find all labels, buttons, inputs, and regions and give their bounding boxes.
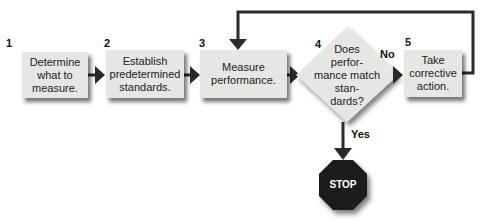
step-4-line: perfor- [307, 56, 387, 69]
step-2-box: Establishpredeterminedstandards. [106, 50, 184, 98]
step-5-text: action. [409, 80, 457, 93]
step-5-number: 5 [405, 36, 411, 48]
step-4-line: dards? [307, 95, 387, 108]
step-2-text: Establish [110, 55, 181, 68]
step-4-line: Does [307, 43, 387, 56]
step-3-box: Measureperformance. [200, 50, 287, 98]
step-4-line: stan- [307, 82, 387, 95]
step-1-number: 1 [6, 37, 12, 49]
connectors [0, 0, 495, 221]
no-label: No [380, 48, 395, 60]
step-1-text: what to [30, 69, 81, 82]
step-1-box: Determinewhat tomeasure. [22, 52, 88, 98]
step-3-text: Measure [211, 61, 276, 74]
step-2-text: standards. [110, 81, 181, 94]
step-1-text: Determine [30, 56, 81, 69]
step-3-text: performance. [211, 74, 276, 87]
step-4-line: mance match [307, 69, 387, 82]
step-2-text: predetermined [110, 68, 181, 81]
step-2-number: 2 [104, 37, 110, 49]
step-3-number: 3 [199, 37, 205, 49]
step-4-text: Does perfor- mance match stan- dards? [307, 43, 387, 108]
step-5-text: corrective [409, 67, 457, 80]
step-5-box: Takecorrectiveaction. [404, 50, 462, 97]
stop-label: STOP [318, 179, 368, 190]
step-5-text: Take [409, 54, 457, 67]
yes-label: Yes [351, 128, 370, 140]
step-1-text: measure. [30, 82, 81, 95]
